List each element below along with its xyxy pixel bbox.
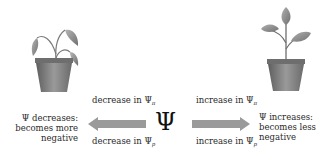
water-potential-symbol: Ψ — [155, 110, 176, 134]
healthy-plant-icon — [255, 3, 320, 93]
right-arrow-icon — [190, 116, 250, 132]
wilted-plant-icon — [25, 20, 85, 95]
right-description: Ψ increases: becomes less negative — [259, 112, 329, 142]
left-arrow-icon — [88, 116, 148, 132]
bottom-left-label: decrease in Ψp — [92, 137, 155, 148]
left-description: Ψ decreases: becomes more negative — [4, 113, 78, 143]
top-right-label: increase in Ψπ — [196, 96, 257, 107]
top-left-label: decrease in Ψπ — [92, 96, 155, 107]
bottom-right-label: increase in Ψp — [196, 137, 257, 148]
